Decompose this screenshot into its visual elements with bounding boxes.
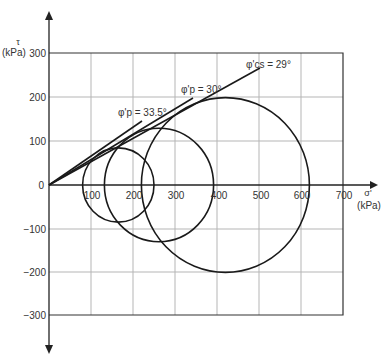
x-tick-200: 200 [126, 190, 143, 201]
x-tick-400: 400 [211, 190, 228, 201]
x-tick-700: 700 [336, 190, 353, 201]
annotation-phi-p-30: φ'p = 30° [181, 84, 221, 95]
y-axis-arrow-down-icon [45, 345, 53, 354]
x-tick-100: 100 [84, 190, 101, 201]
mohr-circle-chart: φ'p = 33.5° φ'p = 30° φ'cs = 29° 300 200… [0, 0, 391, 360]
envelope-phi-cs-29 [49, 68, 260, 185]
x-axis-symbol: σ' [364, 188, 372, 198]
annotation-phi-p-33-5: φ'p = 33.5° [118, 107, 167, 118]
y-tick-0: 0 [38, 180, 44, 191]
y-axis-arrow-up-icon [45, 11, 53, 20]
x-tick-500: 500 [253, 190, 270, 201]
x-tick-600: 600 [294, 190, 311, 201]
y-tick-m200: −200 [23, 267, 46, 278]
x-tick-300: 300 [168, 190, 185, 201]
y-tick-m100: −100 [23, 224, 46, 235]
y-axis-symbol: τ [16, 37, 20, 47]
y-axis-unit: (kPa) [2, 47, 26, 58]
y-tick-100: 100 [29, 136, 46, 147]
annotation-phi-cs-29: φ'cs = 29° [246, 59, 291, 70]
y-tick-m300: −300 [23, 310, 46, 321]
x-axis-unit: (kPa) [357, 200, 381, 211]
y-tick-300: 300 [29, 48, 46, 59]
envelope-phi-p-33-5 [49, 121, 142, 185]
y-tick-200: 200 [29, 92, 46, 103]
